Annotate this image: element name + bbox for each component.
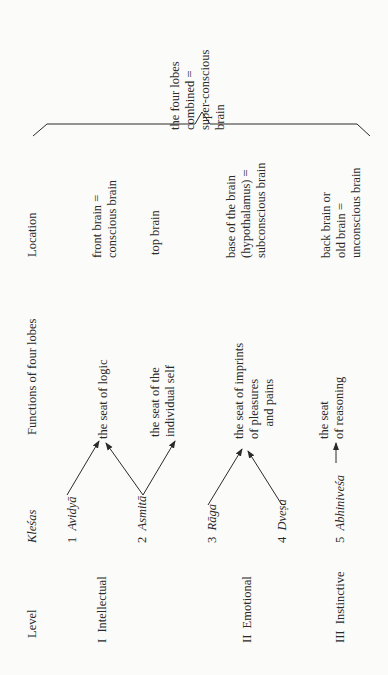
rotated-table-diagram: Level Kleśas Functions of four lobes Loc… [0,0,388,675]
arrow-raga-imprints [208,449,242,505]
arrow-asmita-logic [106,443,143,495]
arrow-asmita-self [143,441,175,495]
arrow-dvesa-imprints [248,451,282,505]
brace [33,112,370,136]
page-edge-marks [0,0,4,675]
connector-lines [0,0,388,675]
arrow-avidya-logic [67,441,99,495]
